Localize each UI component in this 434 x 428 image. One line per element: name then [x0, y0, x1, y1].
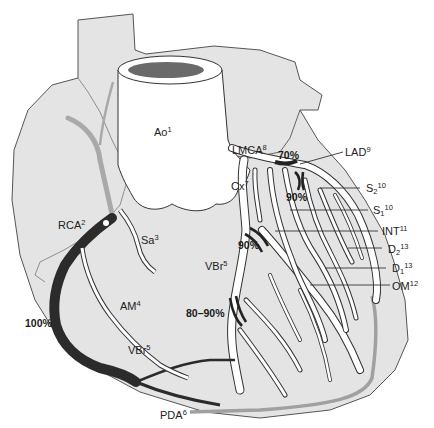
label-ao: Ao1 [154, 126, 172, 138]
label-d2: D213 [388, 243, 408, 257]
label-s2: S210 [366, 182, 386, 196]
stenosis-int-label: 90% [238, 240, 259, 251]
aorta-lumen [128, 62, 204, 78]
stenosis-rca-label: 100% [25, 318, 52, 329]
label-rca: RCA2 [58, 219, 85, 231]
label-int: INT11 [382, 225, 408, 237]
label-sa: Sa3 [141, 234, 159, 246]
label-pda: PDA6 [160, 409, 187, 421]
coronary-diagram [0, 0, 434, 428]
stenosis-vbr-mid-label: 80–90% [186, 308, 225, 319]
label-vbr-bottom: VBr5 [128, 344, 151, 356]
label-om: OM12 [392, 280, 418, 292]
label-vbr-left: VBr5 [205, 260, 228, 272]
label-lmca: LMCA8 [232, 144, 267, 156]
stenosis-lad-proximal-label: 90% [286, 192, 307, 203]
rca-ostium [103, 220, 109, 226]
label-s1: S110 [373, 204, 393, 218]
label-am: AM4 [120, 300, 141, 312]
label-cx: Cx7 [231, 180, 249, 192]
stenosis-lmca-lad-label: 70% [278, 150, 299, 161]
label-d1: D113 [392, 262, 412, 276]
label-lad: LAD9 [345, 146, 371, 158]
